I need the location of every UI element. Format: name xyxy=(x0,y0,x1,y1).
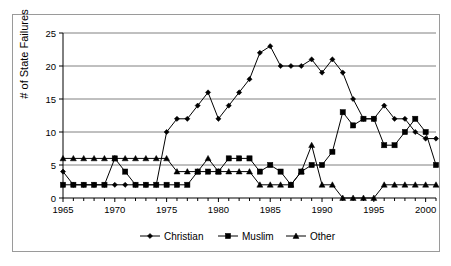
legend-label: Muslim xyxy=(242,231,274,242)
x-tick-label: 1990 xyxy=(311,204,332,215)
x-tick-group: 19651970197519801985199019952000 xyxy=(52,198,436,215)
square-marker xyxy=(60,182,65,187)
x-tick-label: 1975 xyxy=(156,204,177,215)
diamond-marker xyxy=(112,182,117,187)
y-tick-group: 0510152025 xyxy=(45,28,63,204)
series-christian xyxy=(60,44,438,188)
square-marker xyxy=(340,110,345,115)
triangle-marker xyxy=(309,142,315,147)
diamond-marker xyxy=(351,96,356,101)
triangle-marker xyxy=(205,155,211,160)
square-marker xyxy=(81,182,86,187)
x-tick-label: 1970 xyxy=(104,204,125,215)
square-marker xyxy=(123,169,128,174)
data-series-group xyxy=(60,44,439,201)
square-marker xyxy=(278,169,283,174)
square-marker xyxy=(371,116,376,121)
legend-item-other: Other xyxy=(286,231,336,242)
square-marker xyxy=(225,233,230,238)
chart-legend: ChristianMuslimOther xyxy=(140,231,336,242)
square-marker xyxy=(392,143,397,148)
square-marker xyxy=(330,149,335,154)
square-marker xyxy=(319,162,324,167)
x-tick-label: 1995 xyxy=(363,204,384,215)
x-tick-label: 1985 xyxy=(260,204,281,215)
diamond-marker xyxy=(288,63,293,68)
diamond-marker xyxy=(123,182,128,187)
square-marker xyxy=(402,129,407,134)
diamond-marker xyxy=(147,233,152,238)
diamond-marker xyxy=(257,50,262,55)
legend-item-christian: Christian xyxy=(140,231,203,242)
square-marker xyxy=(154,182,159,187)
diamond-marker xyxy=(268,44,273,49)
square-marker xyxy=(382,143,387,148)
square-marker xyxy=(413,116,418,121)
x-tick-label: 1980 xyxy=(208,204,229,215)
y-tick-label: 20 xyxy=(45,61,56,72)
y-tick-label: 0 xyxy=(51,193,56,204)
square-marker xyxy=(205,169,210,174)
square-marker xyxy=(91,182,96,187)
square-marker xyxy=(174,182,179,187)
chart-figure: # of State Failures 0510152025 196519701… xyxy=(0,0,451,266)
square-marker xyxy=(423,129,428,134)
square-marker xyxy=(268,162,273,167)
y-tick-label: 15 xyxy=(45,94,56,105)
x-tick-label: 2000 xyxy=(415,204,436,215)
diamond-marker xyxy=(299,63,304,68)
series-other xyxy=(60,142,439,200)
square-marker xyxy=(351,123,356,128)
square-marker xyxy=(133,182,138,187)
square-marker xyxy=(226,156,231,161)
legend-label: Christian xyxy=(164,231,203,242)
square-marker xyxy=(143,182,148,187)
square-marker xyxy=(164,182,169,187)
square-marker xyxy=(309,162,314,167)
square-marker xyxy=(102,182,107,187)
series-muslim xyxy=(60,110,438,188)
diamond-marker xyxy=(278,63,283,68)
y-tick-label: 10 xyxy=(45,127,56,138)
gridlines-group xyxy=(63,33,436,165)
square-marker xyxy=(247,156,252,161)
legend-label: Other xyxy=(310,231,336,242)
square-marker xyxy=(257,169,262,174)
y-tick-label: 5 xyxy=(51,160,56,171)
square-marker xyxy=(237,156,242,161)
square-marker xyxy=(433,162,438,167)
x-tick-label: 1965 xyxy=(52,204,73,215)
square-marker xyxy=(71,182,76,187)
y-tick-label: 25 xyxy=(45,28,56,39)
diamond-marker xyxy=(433,136,438,141)
line-chart-plot: 0510152025 19651970197519801985199019952… xyxy=(0,0,451,266)
square-marker xyxy=(361,116,366,121)
square-marker xyxy=(185,182,190,187)
legend-item-muslim: Muslim xyxy=(218,231,274,242)
